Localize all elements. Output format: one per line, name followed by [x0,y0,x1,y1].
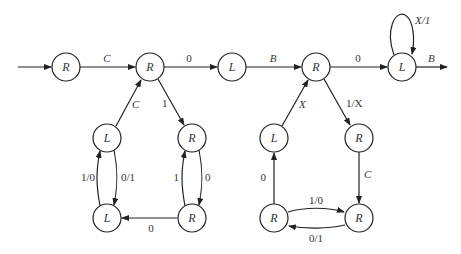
state-n6: L [93,124,121,152]
edge-n4-n11: 1/X [324,79,363,125]
edge-n5-self: X/1 [390,14,430,55]
edge-n12-n13: 1/0 [288,194,344,212]
edge-n13-n12: 0/1 [289,225,345,244]
edge-n10-n4: X [282,80,308,126]
svg-text:0: 0 [355,52,361,64]
edge-n9-n8: 0 [122,218,177,234]
svg-text:C: C [103,52,111,64]
state-diagram: C 0 B 0 X/1 B C 1 1/0 0/1 1 0 [0,0,461,254]
edge-n6-n8: 0/1 [114,150,135,205]
svg-text:L: L [270,131,278,145]
edge-n12-n10: 0 [261,153,275,204]
svg-text:1: 1 [174,171,180,183]
svg-text:B: B [428,52,435,64]
svg-text:X: X [298,98,307,110]
state-n7: R [178,124,206,152]
edge-n7-n9: 0 [199,150,211,205]
svg-text:C: C [132,98,140,110]
svg-text:X/1: X/1 [414,14,430,26]
svg-text:R: R [354,131,363,145]
edge-n4-n5: 0 [330,52,387,67]
state-n9: R [178,204,206,232]
svg-text:0: 0 [148,222,154,234]
edge-n6-n2: C [116,80,141,126]
edge-n9-n7: 1 [174,151,186,206]
state-n13: R [345,204,373,232]
svg-text:1/0: 1/0 [81,171,96,183]
state-n11: R [345,124,373,152]
svg-text:0: 0 [261,171,267,183]
svg-text:1/X: 1/X [346,97,363,109]
svg-text:1/0: 1/0 [309,194,324,206]
svg-text:L: L [103,211,111,225]
edge-n2-n3: 0 [164,52,217,67]
edge-n5-exit: B [416,52,447,67]
svg-text:B: B [270,52,277,64]
state-n3: L [218,53,246,81]
state-n8: L [93,204,121,232]
state-n5: L [388,53,416,81]
state-n12: R [260,204,288,232]
state-n4: R [302,53,330,81]
svg-text:0: 0 [205,171,211,183]
svg-text:R: R [145,60,154,74]
svg-text:0: 0 [186,52,192,64]
edge-n8-n6: 1/0 [81,151,100,206]
state-n1: R [52,53,80,81]
svg-text:R: R [61,60,70,74]
edge-n2-n7: 1 [158,79,184,125]
svg-text:L: L [398,60,406,74]
edge-n11-n13: C [359,152,372,203]
svg-text:R: R [311,60,320,74]
svg-text:R: R [187,211,196,225]
edge-n1-n2: C [80,52,135,67]
state-n2: R [136,53,164,81]
svg-text:R: R [354,211,363,225]
svg-text:L: L [228,60,236,74]
edge-n3-n4: B [246,52,301,67]
svg-text:1: 1 [162,97,168,109]
svg-text:R: R [269,211,278,225]
svg-text:R: R [187,131,196,145]
state-n10: L [260,124,288,152]
svg-text:0/1: 0/1 [309,232,323,244]
svg-text:L: L [103,131,111,145]
svg-text:0/1: 0/1 [121,171,135,183]
svg-text:C: C [364,168,372,180]
